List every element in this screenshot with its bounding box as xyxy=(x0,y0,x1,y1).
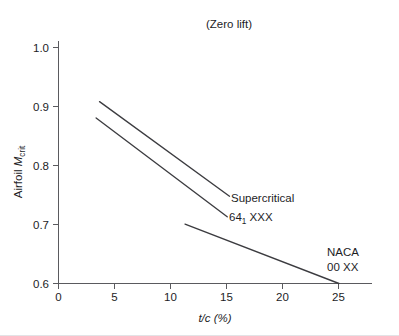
figure-root: (Zero lift) 1.0 0.9 0.8 0.7 0.6 xyxy=(0,0,399,336)
chart-title: (Zero lift) xyxy=(206,18,252,30)
series-line-naca00xx xyxy=(185,224,339,283)
x-axis-title: t/c (%) xyxy=(198,312,231,324)
airfoil-mcrit-chart: (Zero lift) 1.0 0.9 0.8 0.7 0.6 xyxy=(0,0,399,336)
sixtyfour-label: 641 XXX xyxy=(229,211,273,226)
y-axis-title: Airfoil Mcrit xyxy=(12,145,27,198)
y-axis-ticks xyxy=(53,48,59,284)
naca-label-line1: NACA xyxy=(327,246,359,258)
naca-label-line2: 00 XX xyxy=(327,261,359,273)
y-tick-label-1.0: 1.0 xyxy=(33,42,49,54)
y-axis-title-symbol: M xyxy=(12,156,24,166)
x-tick-label-25: 25 xyxy=(332,291,345,303)
y-tick-label-0.6: 0.6 xyxy=(33,278,49,290)
series-line-supercritical xyxy=(100,102,230,197)
y-tick-label-0.9: 0.9 xyxy=(33,101,49,113)
sixtyfour-label-suffix: XXX xyxy=(246,211,273,223)
supercritical-label: Supercritical xyxy=(231,192,294,204)
y-axis-title-subscript: crit xyxy=(18,145,27,157)
x-axis-title-symbol: t/c (%) xyxy=(198,312,231,324)
x-axis-tick-labels: 0 5 10 15 20 25 xyxy=(55,291,345,303)
y-tick-label-0.8: 0.8 xyxy=(33,160,49,172)
x-tick-label-5: 5 xyxy=(111,291,117,303)
x-tick-label-0: 0 xyxy=(55,291,61,303)
x-tick-label-20: 20 xyxy=(276,291,289,303)
x-tick-label-15: 15 xyxy=(220,291,233,303)
y-axis-tick-labels: 1.0 0.9 0.8 0.7 0.6 xyxy=(33,42,49,290)
y-tick-label-0.7: 0.7 xyxy=(33,219,49,231)
sixtyfour-label-main: 64 xyxy=(229,211,242,223)
series-line-641xxx xyxy=(96,118,227,217)
x-axis-ticks xyxy=(59,284,339,290)
x-tick-label-10: 10 xyxy=(164,291,177,303)
y-axis-title-main: Airfoil xyxy=(12,166,24,198)
